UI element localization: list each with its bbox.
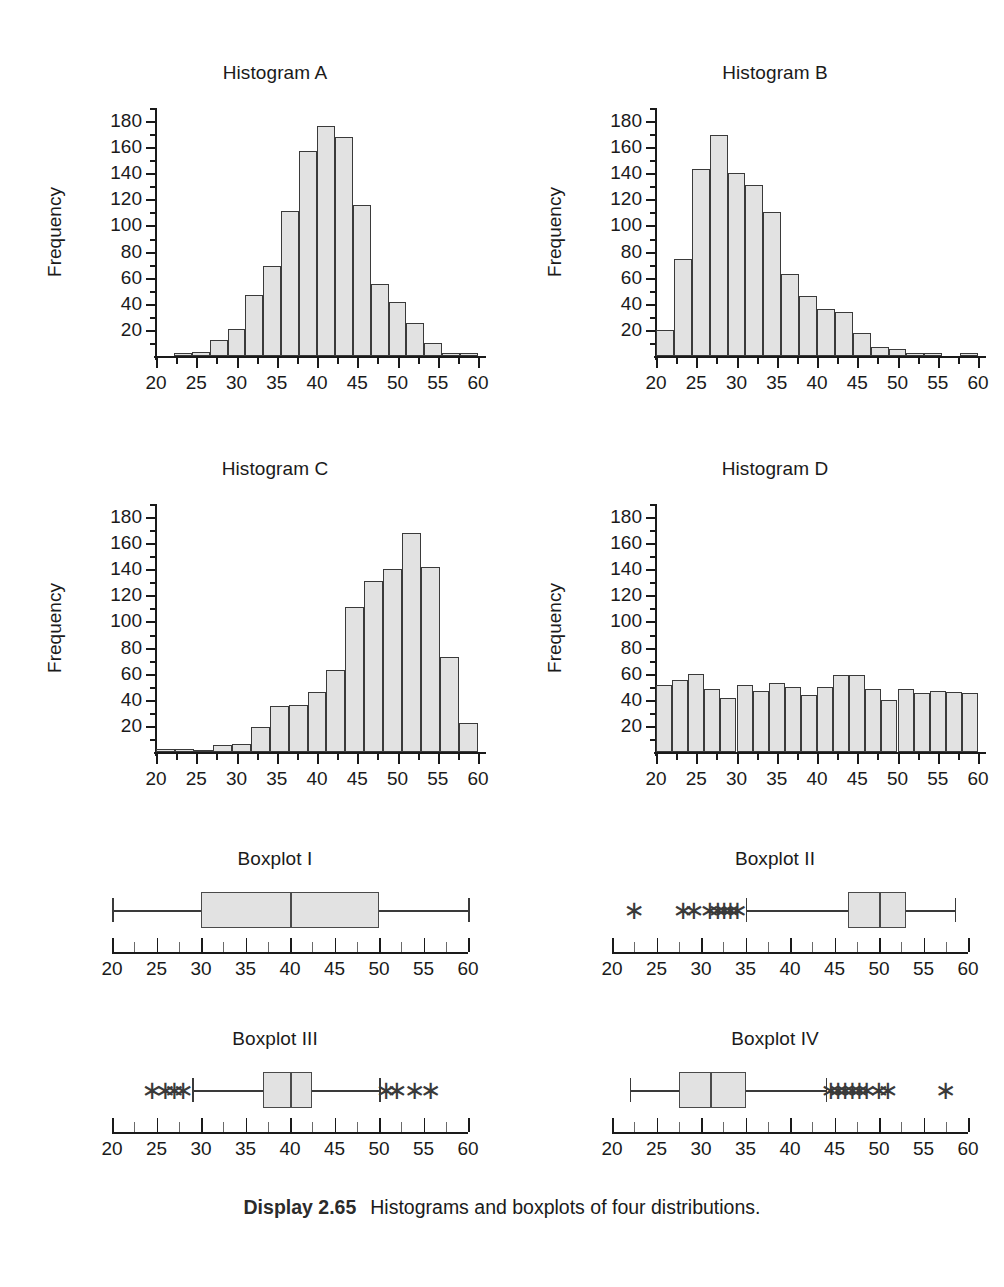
y-axis-tick — [650, 582, 655, 584]
y-axis-tick — [650, 212, 655, 214]
x-axis-tick-label: 35 — [766, 372, 787, 394]
histogram-bar — [801, 695, 817, 752]
boxplot-axis-tick — [401, 942, 402, 952]
y-axis-tick — [646, 726, 655, 728]
y-axis-tick-label: 140 — [560, 162, 642, 184]
boxplot-axis-tick — [379, 938, 381, 952]
y-axis-tick-label: 80 — [560, 241, 642, 263]
y-axis-tick-label: 40 — [60, 689, 142, 711]
x-axis-tick-label: 45 — [847, 372, 868, 394]
boxplot-3-title: Boxplot III — [60, 1028, 490, 1050]
y-axis-tick — [150, 582, 155, 584]
boxplot-axis-tick — [679, 942, 680, 952]
boxplot-axis-tick — [201, 938, 203, 952]
boxplot-axis-tick — [723, 942, 724, 952]
x-axis-tick — [918, 754, 920, 760]
histogram-bar — [962, 693, 978, 752]
x-axis-tick — [837, 754, 839, 760]
boxplot-axis-tick — [946, 942, 947, 952]
y-axis-tick — [646, 252, 655, 254]
x-axis-line — [654, 752, 986, 754]
boxplot-axis-tick-label: 40 — [779, 1138, 800, 1160]
boxplot-axis-tick — [424, 1118, 426, 1132]
boxplot-axis-tick — [701, 938, 703, 952]
y-axis-tick — [650, 134, 655, 136]
boxplot-outlier-star: ★∗ — [877, 1077, 899, 1103]
boxplot-axis-tick-label: 55 — [413, 1138, 434, 1160]
x-axis-tick — [757, 358, 759, 364]
x-axis-tick — [176, 358, 178, 364]
x-axis-tick — [817, 358, 819, 368]
y-axis-tick — [150, 239, 155, 241]
x-axis-tick — [797, 754, 799, 760]
figure-caption: Display 2.65Histograms and boxplots of f… — [0, 1196, 1004, 1219]
histogram-bar — [251, 727, 270, 752]
y-axis-tick — [650, 317, 655, 319]
boxplot-axis-tick-label: 40 — [279, 958, 300, 980]
y-axis-tick — [146, 199, 155, 201]
histogram-bar — [245, 295, 263, 356]
x-axis-tick — [438, 754, 440, 764]
x-axis-tick — [918, 358, 920, 364]
histogram-a-plot: Frequency2040608010012014016018020253035… — [60, 102, 490, 402]
histogram-bar — [345, 607, 364, 752]
boxplot-axis-tick — [924, 1118, 926, 1132]
boxplot-axis-tick — [790, 1118, 792, 1132]
boxplot-axis-tick — [179, 1122, 180, 1132]
y-axis-tick — [150, 291, 155, 293]
caption-label: Display 2.65 — [244, 1196, 357, 1218]
y-axis-tick-label: 100 — [60, 214, 142, 236]
histogram-bar — [440, 657, 459, 752]
boxplot-whisker-cap-high — [468, 898, 470, 922]
boxplot-axis-tick — [157, 1118, 159, 1132]
boxplot-axis-tick — [335, 938, 337, 952]
x-axis-tick — [898, 358, 900, 368]
histogram-bar — [175, 749, 194, 752]
histogram-b-plot: Frequency2040608010012014016018020253035… — [560, 102, 990, 402]
x-axis-line — [154, 356, 486, 358]
y-axis-tick-label: 120 — [560, 188, 642, 210]
y-axis-tick — [146, 304, 155, 306]
boxplot-axis-tick-label: 35 — [735, 958, 756, 980]
x-axis-tick — [676, 358, 678, 364]
y-axis-tick-label: 80 — [560, 637, 642, 659]
histogram-bar — [156, 749, 175, 752]
x-axis-tick-label: 40 — [806, 768, 827, 790]
y-axis-tick-label: 80 — [60, 241, 142, 263]
boxplot-axis-tick — [657, 1118, 659, 1132]
boxplot-axis-tick — [468, 1118, 470, 1132]
boxplot-axis-tick — [446, 1122, 447, 1132]
x-axis-tick — [857, 358, 859, 368]
histogram-bar — [881, 700, 897, 752]
histogram-bar — [924, 353, 942, 356]
y-axis-tick — [646, 304, 655, 306]
y-axis-tick — [646, 330, 655, 332]
y-axis-tick — [650, 343, 655, 345]
y-axis-tick — [150, 160, 155, 162]
boxplot-axis-tick — [335, 1118, 337, 1132]
boxplot-axis-tick — [134, 942, 135, 952]
boxplot-axis-tick — [357, 1122, 358, 1132]
panel-histogram-c: Histogram C Frequency2040608010012014016… — [60, 458, 490, 798]
boxplot-axis-tick-label: 50 — [368, 1138, 389, 1160]
boxplot-axis-tick-label: 45 — [824, 958, 845, 980]
histogram-bar — [720, 698, 736, 752]
panel-boxplot-3: Boxplot III ★∗★∗★∗★∗★∗★∗★∗★∗202530354045… — [60, 1028, 490, 1158]
x-axis-tick-label: 35 — [266, 768, 287, 790]
x-axis-tick — [337, 358, 339, 364]
boxplot-axis-tick-label: 25 — [646, 1138, 667, 1160]
boxplot-axis-tick — [612, 938, 614, 952]
histogram-bar — [389, 302, 407, 356]
x-axis-tick — [898, 754, 900, 764]
histogram-bar — [174, 353, 192, 356]
histogram-bar — [402, 533, 421, 752]
boxplot-axis-tick-label: 50 — [868, 958, 889, 980]
y-axis-tick — [146, 225, 155, 227]
y-axis-tick — [646, 121, 655, 123]
boxplot-axis-tick — [401, 1122, 402, 1132]
histogram-bar — [817, 687, 833, 752]
boxplot-median-line — [290, 892, 292, 928]
y-axis-tick — [646, 621, 655, 623]
boxplot-axis-tick — [723, 1122, 724, 1132]
x-axis-tick — [656, 754, 658, 764]
